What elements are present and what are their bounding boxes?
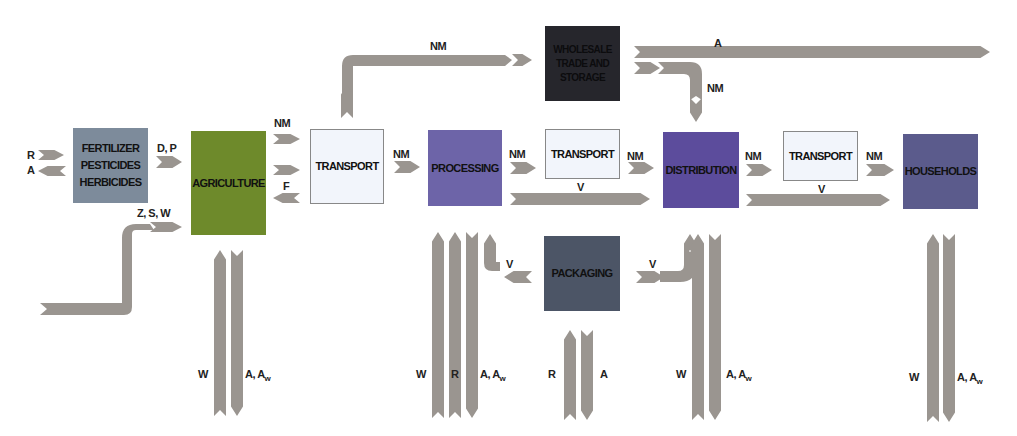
arrow-zsw-head	[150, 222, 182, 232]
flow-label-v-distribution: V	[818, 183, 825, 195]
flow-label-a-households: A, Aw	[957, 371, 982, 386]
flow-label-a-processing: A, Aw	[480, 368, 505, 383]
arrow-a-processing	[466, 232, 478, 418]
flow-label-a-distribution-text: A, A	[726, 368, 746, 380]
node-transport-2: TRANSPORT	[545, 129, 620, 179]
arrow-v-distribution	[746, 194, 890, 206]
arrow-r-packaging	[564, 330, 576, 420]
node-wholesale: WHOLESALE TRADE AND STORAGE	[545, 26, 620, 101]
arrow-a-top	[634, 46, 990, 58]
node-processing: PROCESSING	[428, 130, 502, 206]
arrow-w-distribution	[692, 234, 704, 420]
flow-label-w-processing: W	[416, 368, 426, 380]
node-packaging: PACKAGING	[544, 236, 620, 311]
arrow-zsw-shadow-hidden	[40, 224, 156, 302]
arrow-nm-transport-processing	[394, 161, 420, 173]
arrow-f-back	[273, 193, 300, 203]
flow-label-nm-processing-transport: NM	[509, 148, 525, 160]
arrow-r-processing	[449, 232, 461, 418]
arrow-v-processing	[510, 193, 650, 205]
arrow-to-transport	[273, 165, 300, 175]
flow-label-nm-top: NM	[430, 40, 446, 52]
arrow-nm-top-path	[342, 55, 512, 115]
flow-label-a-distribution: A, Aw	[726, 368, 751, 383]
flow-label-nm-wholesale-distribution: NM	[707, 82, 723, 94]
node-transport-1: TRANSPORT	[310, 129, 384, 204]
flow-label-v-packaging-right: V	[649, 258, 656, 270]
flow-label-w-distribution: W	[676, 368, 686, 380]
arrow-nm-wholesale-out	[634, 62, 660, 74]
arrow-w-households	[927, 234, 939, 422]
subscript-w: w	[977, 377, 983, 386]
node-fertilizer: FERTILIZER PESTICIDES HERBICIDES	[73, 128, 148, 203]
flow-label-a-agriculture-text: A, A	[245, 368, 265, 380]
arrow-nm-ag-transport	[273, 134, 300, 144]
arrow-zsw-path	[40, 224, 154, 315]
arrow-r-into-fertilizer	[38, 150, 64, 160]
arrow-w-processing	[432, 232, 444, 418]
flow-label-nm-transport-processing: NM	[393, 148, 409, 160]
flow-label-w-agriculture: W	[198, 368, 208, 380]
node-transport-3: TRANSPORT	[783, 131, 858, 181]
arrow-v-packaging-right	[636, 271, 664, 283]
arrow-nm-into-distribution	[690, 98, 702, 122]
arrow-a-distribution	[709, 234, 721, 420]
flow-label-nm-distribution-transport: NM	[745, 150, 761, 162]
arrow-dp	[156, 156, 182, 168]
flow-label-nm-transport-distribution: NM	[627, 150, 643, 162]
arrow-v-packaging-right-bend	[660, 246, 696, 282]
flow-label-r-packaging: R	[548, 368, 555, 380]
flow-label-a-households-text: A, A	[957, 371, 977, 383]
subscript-w: w	[500, 374, 506, 383]
subscript-w: w	[746, 374, 752, 383]
flow-label-a-top: A	[714, 37, 721, 49]
flow-label-dp: D, P	[157, 142, 176, 154]
arrow-v-packaging-left	[504, 271, 532, 283]
flow-label-v-packaging-left: V	[506, 258, 513, 270]
node-distribution: DISTRIBUTION	[663, 132, 739, 208]
arrow-nm-transport-distribution	[628, 162, 654, 174]
arrow-w-agriculture	[214, 250, 226, 416]
flow-label-a-packaging: A	[600, 368, 607, 380]
arrow-nm-transport-households	[866, 164, 894, 176]
arrow-a-agriculture	[231, 250, 243, 416]
flow-label-zsw: Z, S, W	[137, 207, 170, 219]
flow-label-f: F	[283, 180, 289, 192]
subscript-w: w	[265, 374, 271, 383]
arrow-a-packaging	[581, 330, 593, 420]
flow-label-r-processing: R	[451, 368, 458, 380]
node-households: HOUSEHOLDS	[903, 134, 978, 209]
flow-label-nm-ag-transport: NM	[274, 117, 290, 129]
arrow-nm-distribution-transport	[746, 164, 772, 176]
node-agriculture: AGRICULTURE	[191, 131, 266, 235]
flow-label-a-fertilizer-out: A	[27, 164, 34, 176]
flow-label-nm-transport-households: NM	[866, 150, 882, 162]
arrow-nm-wholesale-bend	[658, 62, 702, 100]
flow-label-w-households: W	[909, 371, 919, 383]
flow-label-a-processing-text: A, A	[480, 368, 500, 380]
arrow-nm-processing-transport	[510, 162, 536, 174]
flow-label-a-agriculture: A, Aw	[245, 368, 270, 383]
arrow-a-households	[943, 234, 955, 422]
flow-label-v-processing: V	[577, 181, 584, 193]
arrow-nm-top-head	[512, 54, 532, 66]
flow-label-r-fertilizer-in: R	[27, 149, 34, 161]
arrow-a-out-of-fertilizer	[38, 166, 66, 176]
